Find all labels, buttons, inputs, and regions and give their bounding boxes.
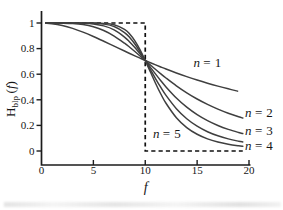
y-tick-label-0.4: 0.4 <box>21 94 35 106</box>
y-tick-label-1: 1 <box>29 17 35 29</box>
curve-label-n-2: n = 2 <box>245 105 273 120</box>
x-tick-label-10: 10 <box>140 164 152 176</box>
y-tick-label-0: 0 <box>29 145 35 157</box>
chart-canvas: 0510152000.20.40.60.81fHblp (f)n = 1n = … <box>0 0 283 210</box>
x-tick-label-5: 5 <box>91 164 97 176</box>
curve-label-n-3: n = 3 <box>245 123 273 138</box>
y-tick-label-0.8: 0.8 <box>21 42 35 54</box>
curve-label-n-1: n = 1 <box>193 55 221 70</box>
curve-n-2 <box>46 23 243 118</box>
curve-n-3 <box>46 23 243 134</box>
ideal-filter-dashed-line <box>46 23 243 151</box>
y-axis-title: Hblp (f) <box>3 81 20 117</box>
x-tick-label-0: 0 <box>39 164 45 176</box>
y-tick-label-0.2: 0.2 <box>21 119 35 131</box>
curve-label-n-4: n = 4 <box>245 138 273 153</box>
y-tick-label-0.6: 0.6 <box>21 68 35 80</box>
butterworth-response-figure: 0510152000.20.40.60.81fHblp (f)n = 1n = … <box>0 0 283 210</box>
x-axis-title: f <box>144 180 150 195</box>
x-tick-label-20: 20 <box>244 164 256 176</box>
curve-label-n-5: n = 5 <box>153 126 181 141</box>
x-tick-label-15: 15 <box>192 164 204 176</box>
